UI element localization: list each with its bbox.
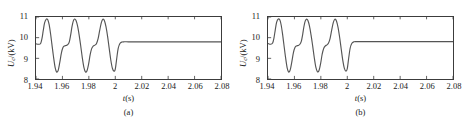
waveform-svg-b: [268, 17, 453, 79]
x-tick-label: 1.94: [260, 82, 275, 91]
x-tick-label: 2.08: [215, 82, 230, 91]
x-tick-label: 1.96: [54, 82, 69, 91]
x-tick-label: 2.02: [366, 82, 381, 91]
plot-area-b: [267, 16, 454, 80]
x-axis-label-a: t(s): [35, 93, 222, 103]
x-tick-label: 1.94: [28, 82, 43, 91]
figure-two-panel-waveforms: 891011 Uc/(kV) 1.941.961.9822.022.042.06…: [0, 0, 464, 127]
x-axis-label-b: t(s): [267, 93, 454, 103]
waveform-svg-a: [36, 17, 221, 79]
panel-caption-a: (a): [35, 107, 222, 117]
x-tick-label: 1.96: [286, 82, 301, 91]
y-axis-label-a: Uc/(kV): [6, 21, 16, 85]
x-tick-label: 2.08: [447, 82, 462, 91]
x-axis-ticks-b: 1.941.961.9822.022.042.062.08: [267, 82, 454, 93]
x-tick-label: 2.06: [188, 82, 203, 91]
y-tick-label: 10: [20, 33, 29, 42]
x-axis-ticks-a: 1.941.961.9822.022.042.062.08: [35, 82, 222, 93]
panel-caption-b: (b): [267, 107, 454, 117]
y-tick-label: 9: [256, 54, 260, 63]
x-tick-label: 2.06: [420, 82, 435, 91]
y-tick-label: 9: [24, 54, 28, 63]
x-tick-label: 2.04: [161, 82, 176, 91]
y-tick-label: 11: [20, 12, 28, 21]
x-tick-label: 1.98: [313, 82, 328, 91]
data-line: [268, 19, 453, 72]
y-tick-label: 11: [252, 12, 260, 21]
panel-b: 891011 Uc/(kV) 1.941.961.9822.022.042.06…: [232, 0, 464, 127]
data-line: [36, 19, 221, 72]
x-tick-label: 2.04: [393, 82, 408, 91]
x-tick-label: 2: [113, 82, 117, 91]
y-axis-label-b: Uc/(kV): [238, 21, 248, 85]
plot-area-a: [35, 16, 222, 80]
y-tick-label: 10: [252, 33, 261, 42]
x-tick-label: 2.02: [134, 82, 149, 91]
x-tick-label: 2: [345, 82, 349, 91]
panel-a: 891011 Uc/(kV) 1.941.961.9822.022.042.06…: [0, 0, 232, 127]
x-tick-label: 1.98: [81, 82, 96, 91]
